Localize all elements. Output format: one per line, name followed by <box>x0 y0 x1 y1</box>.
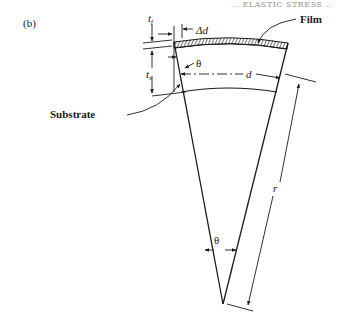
bending-diagram: (b) Film Substrate tf ts Δd θ d r θ <box>0 0 340 331</box>
ts-label: ts <box>146 68 152 82</box>
wedge-right-side <box>223 43 288 304</box>
film-label: Film <box>300 13 322 25</box>
r-top-ext <box>285 74 316 82</box>
r-bottom-ext <box>227 304 253 311</box>
r-label: r <box>273 182 278 194</box>
tf-label: tf <box>148 12 154 26</box>
theta-top-label: θ <box>196 57 201 69</box>
substrate-leader <box>127 84 180 115</box>
tf-top-ext <box>143 40 172 43</box>
panel-label: (b) <box>23 17 36 30</box>
substrate-label: Substrate <box>50 108 95 120</box>
wedge-left-side <box>174 42 223 304</box>
tf-bottom-ext <box>143 46 172 49</box>
d-label: d <box>246 68 252 80</box>
substrate-bottom-arc <box>181 88 277 92</box>
theta-apex-label: θ <box>214 234 219 246</box>
delta-d-label: Δd <box>195 24 208 36</box>
